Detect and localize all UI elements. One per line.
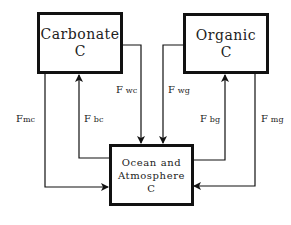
fbg-label: F bg [200,113,220,124]
fmc-label: Fmc [16,113,35,124]
fwc-label: F wc [116,84,137,95]
organic-c-box: Organic C [183,13,269,74]
carbonate-label: Carbonate [41,26,120,43]
fwg-label: F wg [168,84,190,95]
fmg-label: F mg [261,113,284,124]
ocean-atmosphere-c-box: Ocean and Atmosphere C [109,144,194,206]
organic-label: Organic [196,27,256,44]
fmc-arrow [45,73,108,187]
ocean-label: Ocean and [122,156,182,169]
fbc-label: F bc [84,113,103,124]
organic-c-label: C [221,44,232,61]
carbonate-c-label: C [75,43,86,60]
carbon-cycle-diagram: Carbonate C Organic C Ocean and Atmosphe… [0,0,291,225]
atmosphere-label: Atmosphere [118,169,185,182]
carbonate-c-box: Carbonate C [37,12,123,74]
ocean-c-label: C [147,182,155,195]
